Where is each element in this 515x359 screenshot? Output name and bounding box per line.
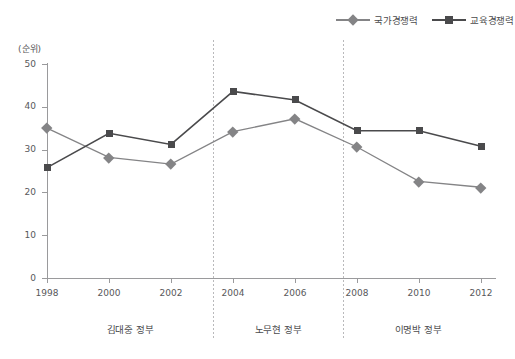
square-icon: [106, 130, 113, 137]
square-icon: [230, 88, 237, 95]
square-icon: [44, 164, 51, 171]
square-icon: [292, 96, 299, 103]
series-lines: [0, 0, 515, 359]
square-icon: [168, 141, 175, 148]
square-icon: [354, 127, 361, 134]
square-icon: [416, 127, 423, 134]
chart-root: 국가경쟁력 교육경쟁력 (순위) 01020304050 19982000200…: [0, 0, 515, 359]
square-icon: [478, 143, 485, 150]
